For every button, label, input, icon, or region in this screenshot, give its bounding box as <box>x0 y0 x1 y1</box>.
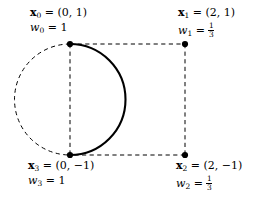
label-point-x0-weight: w0 = 1 <box>30 22 87 37</box>
control-point-x3 <box>67 152 73 158</box>
label-w3-value: = 1 <box>42 174 65 187</box>
label-point-x3: x3 = (0, −1) w3 = 1 <box>28 160 94 190</box>
solid-circle-arc <box>70 44 126 155</box>
label-w2-value: = <box>190 177 206 190</box>
label-x2-value: = (2, −1) <box>187 159 242 172</box>
control-point-x2 <box>182 152 188 158</box>
label-point-x0: x0 = (0, 1) w0 = 1 <box>30 7 87 37</box>
label-point-x3-coords: x3 = (0, −1) <box>28 160 94 175</box>
label-point-x2: x2 = (2, −1) w2 = 13 <box>176 160 242 190</box>
control-point-markers <box>67 41 188 158</box>
label-point-x2-coords: x2 = (2, −1) <box>176 160 242 175</box>
label-w0-symbol: w0 <box>30 21 44 34</box>
label-w2-fraction: 13 <box>206 175 212 191</box>
label-point-x1-weight: w1 = 13 <box>178 22 235 37</box>
label-x2-symbol: x2 <box>176 159 187 172</box>
dashed-circle-arc <box>15 44 70 155</box>
label-w1-symbol: w1 <box>178 24 192 37</box>
label-x1-value: = (2, 1) <box>189 6 235 19</box>
label-x1-symbol: x1 <box>178 6 189 19</box>
control-point-x1 <box>182 41 188 47</box>
label-w0-value: = 1 <box>44 21 67 34</box>
label-w1-value: = <box>192 24 208 37</box>
label-w3-symbol: w3 <box>28 174 42 187</box>
label-x0-symbol: x0 <box>30 6 41 19</box>
label-point-x2-weight: w2 = 13 <box>176 175 242 190</box>
label-point-x1: x1 = (2, 1) w1 = 13 <box>178 7 235 37</box>
control-point-x0 <box>67 41 73 47</box>
label-x3-symbol: x3 <box>28 159 39 172</box>
control-polygon <box>70 44 185 155</box>
label-point-x3-weight: w3 = 1 <box>28 175 94 190</box>
label-x3-value: = (0, −1) <box>39 159 94 172</box>
label-point-x0-coords: x0 = (0, 1) <box>30 7 87 22</box>
label-x0-value: = (0, 1) <box>41 6 87 19</box>
label-w2-symbol: w2 <box>176 177 190 190</box>
label-w1-fraction: 13 <box>208 22 214 38</box>
label-point-x1-coords: x1 = (2, 1) <box>178 7 235 22</box>
figure-container: x0 = (0, 1) w0 = 1 x1 = (2, 1) w1 = 13 x… <box>0 0 269 202</box>
